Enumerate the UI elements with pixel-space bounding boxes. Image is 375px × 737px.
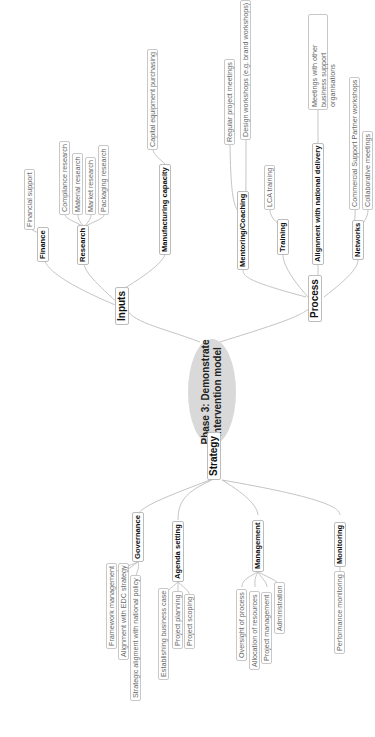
subtopic-mentoring-coaching: Mentoring/Coaching [237, 191, 249, 270]
leaf-establishing-business-case: Establishing business case [158, 588, 169, 680]
leaf-commercial-support-partner: Commercial Support Partner workshops [349, 77, 360, 210]
branch-process: Process [308, 275, 322, 322]
leaf-lca-training: LCA training [264, 165, 275, 210]
leaf-project-scoping: Project scoping [184, 594, 195, 649]
subtopic-alignment-national-delivery: Alignment with national delivery [312, 143, 324, 265]
central-topic-line2: intervention model [212, 347, 224, 436]
leaf-capital-equipment: Capital equipment purchasing [147, 49, 158, 150]
leaf-market-research: Market research [85, 157, 96, 215]
leaf-design-workshops: Design workshops (e.g. brand workshops) [240, 0, 251, 140]
branch-inputs: Inputs [115, 287, 129, 325]
leaf-strategic-alignment-policy: Strategic aligment with national policy [130, 575, 141, 701]
leaf-project-planning: Project planning [172, 591, 183, 649]
leaf-financial-support: Financial support [24, 169, 35, 230]
leaf-administration: Administration [274, 582, 285, 634]
mind-map-canvas: Phase 3: Demonstrate intervention model … [0, 0, 375, 737]
leaf-allocation-of-resources: Allocation of resources [249, 591, 260, 670]
subtopic-finance: Finance [37, 227, 49, 262]
subtopic-manufacturing-capacity: Manufacturing capacity [159, 164, 171, 255]
subtopic-research: Research [77, 225, 89, 265]
leaf-project-management: Project management [261, 592, 272, 664]
leaf-compliance-research: Compliance research [59, 141, 70, 215]
subtopic-training: Training [277, 219, 289, 255]
subtopic-monitoring: Monitoring [334, 522, 346, 567]
leaf-meetings-other-orgs: Meetings with other business support org… [308, 14, 328, 110]
leaf-alignment-edc-strategy: Alignment with EDC strategy [118, 563, 129, 660]
leaf-collaborative-meetings: Collaborative meetings [362, 131, 373, 210]
subtopic-governance: Governance [132, 512, 144, 562]
leaf-regular-project-meetings: Regular project meetings [224, 59, 235, 145]
leaf-performance-monitoring: Performance monitoring [334, 571, 345, 654]
subtopic-agenda-setting: Agenda setting [172, 521, 184, 582]
branch-strategy: Strategy [207, 432, 221, 480]
central-topic: Phase 3: Demonstrate intervention model [188, 339, 236, 445]
leaf-packaging-research: Packaging research [98, 145, 109, 215]
leaf-oversight-of-process: Oversight of process [236, 589, 247, 661]
central-topic-line1: Phase 3: Demonstrate [200, 339, 212, 444]
leaf-material-research: Material research [72, 153, 83, 215]
subtopic-management: Management [252, 520, 264, 572]
subtopic-networks: Networks [352, 220, 364, 260]
leaf-framework-management: Framework management [106, 563, 117, 649]
